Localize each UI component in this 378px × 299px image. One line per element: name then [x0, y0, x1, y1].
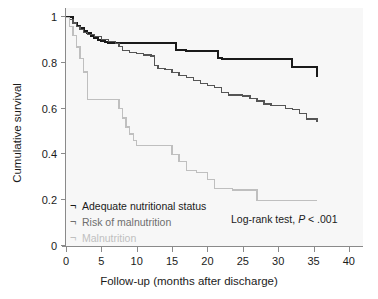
x-tick-label-0: 0	[63, 255, 69, 267]
x-tick-label-3: 15	[166, 255, 178, 267]
legend-marker-icon-0: ¬	[70, 200, 78, 211]
x-tick-label-2: 10	[131, 255, 143, 267]
annotation-text-after: < .001	[305, 213, 337, 225]
legend-item-2: ¬Malnutrition	[70, 231, 206, 244]
y-tick-label-2: 0.4	[42, 148, 57, 160]
legend-marker-icon-2: ¬	[70, 232, 78, 243]
annotation-text-before: Log-rank test,	[231, 213, 298, 225]
y-tick-label-0: 0	[51, 240, 57, 252]
legend-marker-icon-1: ¬	[70, 216, 78, 227]
legend-label-2: Malnutrition	[82, 232, 136, 244]
log-rank-annotation: Log-rank test, P < .001	[231, 213, 338, 225]
kaplan-meier-survival-chart: 00.20.40.60.81 0510152025303540 Cumulati…	[0, 0, 378, 299]
x-axis-title: Follow-up (months after discharge)	[0, 275, 378, 287]
legend-item-1: ¬Risk of malnutrition	[70, 215, 206, 228]
chart-legend: ¬Adequate nutritional status¬Risk of mal…	[70, 199, 206, 244]
y-tick-label-4: 0.8	[42, 57, 57, 69]
x-tick-label-6: 30	[272, 255, 284, 267]
x-tick-label-4: 20	[201, 255, 213, 267]
y-tick-label-5: 1	[51, 11, 57, 23]
x-tick-label-1: 5	[98, 255, 104, 267]
x-tick-label-8: 40	[343, 255, 355, 267]
legend-label-0: Adequate nutritional status	[82, 200, 206, 212]
legend-label-1: Risk of malnutrition	[82, 216, 171, 228]
y-axis-title: Cumulative survival	[11, 53, 23, 213]
x-tick-label-5: 25	[237, 255, 249, 267]
y-tick-label-1: 0.2	[42, 194, 57, 206]
legend-item-0: ¬Adequate nutritional status	[70, 199, 206, 212]
y-tick-label-3: 0.6	[42, 103, 57, 115]
x-tick-label-7: 35	[307, 255, 319, 267]
